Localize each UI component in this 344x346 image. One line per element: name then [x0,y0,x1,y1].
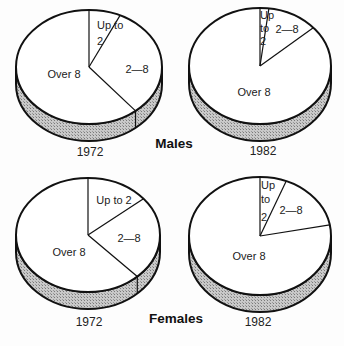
slice-label: Up to [97,19,123,31]
slice-label: 2—8 [125,63,148,75]
year-label: 1972 [76,315,103,329]
slice-label: 2—8 [279,204,302,216]
slice-label: 2—8 [117,232,140,244]
slice-label: to [260,22,269,34]
year-label: 1972 [77,145,104,159]
pie-females-1972: Up to 22—8Over 81972 [16,178,160,329]
pie-females-1982: Upto22—8Over 81982 [189,177,331,329]
group-label-females: Females [149,311,203,326]
group-label-males: Males [155,136,193,151]
slice-label: to [261,193,270,205]
pie-males-1972: Up to22—8Over 81972 [16,10,162,159]
slice-label: Up to 2 [96,194,131,206]
slice-label: Up [261,179,275,191]
year-label: 1982 [250,144,277,158]
slice-label: 2—8 [275,23,298,35]
chart-canvas: Up to22—8Over 81972Upto22—8Over 81982Up … [0,0,344,346]
slice-label: 2 [97,35,103,47]
slice-label: Up [260,9,274,21]
slice-label: Over 8 [52,246,85,258]
slice-label: 2 [260,35,266,47]
pie-males-1982: Upto22—8Over 81982 [189,8,331,158]
slice-label: Over 8 [237,86,270,98]
pie-chart-figure: Up to22—8Over 81972Upto22—8Over 81982Up … [0,0,344,346]
year-label: 1982 [245,315,272,329]
slice-label: Over 8 [232,250,265,262]
slice-label: Over 8 [47,68,80,80]
slice-label: 2 [261,211,267,223]
